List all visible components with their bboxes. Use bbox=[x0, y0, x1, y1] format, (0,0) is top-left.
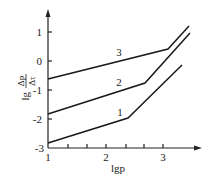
y-tick-label: -3 bbox=[35, 142, 45, 154]
x-tick-label: 2 bbox=[103, 151, 109, 163]
svg-text:Δp: Δp bbox=[16, 75, 26, 86]
x-tick-label: 1 bbox=[45, 151, 51, 163]
y-tick-label: 0 bbox=[37, 55, 43, 67]
curve-1-label: 1 bbox=[117, 106, 123, 118]
chart: 1 0 -1 -2 -3 1 2 3 lgp lg Δp Δτ 1 2 3 bbox=[0, 0, 211, 180]
x-axis-label: lgp bbox=[111, 162, 126, 174]
curve-2-label: 2 bbox=[116, 76, 122, 88]
svg-text:lg: lg bbox=[19, 92, 31, 101]
curve-1 bbox=[48, 65, 182, 143]
y-tick-label: -2 bbox=[33, 113, 42, 125]
curve-3-label: 3 bbox=[116, 46, 122, 58]
y-tick-label: 1 bbox=[37, 26, 43, 38]
x-tick-label: 3 bbox=[160, 151, 166, 163]
y-axis-arrow-icon bbox=[46, 9, 51, 17]
x-axis-arrow-icon bbox=[194, 146, 202, 151]
svg-text:Δτ: Δτ bbox=[27, 76, 37, 86]
